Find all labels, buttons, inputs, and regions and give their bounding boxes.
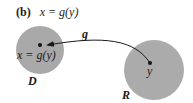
domain-point-label: x = g(y) — [17, 48, 56, 63]
point-x-dot — [38, 43, 42, 47]
domain-set-label: D — [28, 74, 37, 89]
figure-title: (b) x = g(y) — [16, 5, 78, 20]
range-set-R-disk — [124, 40, 184, 100]
range-point-label: y — [147, 64, 152, 79]
title-equation: x = g(y) — [40, 5, 79, 19]
mapping-diagram: (b) x = g(y) g x = g(y) D y R — [0, 0, 193, 103]
map-label-g: g — [82, 27, 88, 42]
panel-label: (b) — [16, 5, 31, 19]
range-set-label: R — [122, 88, 130, 103]
